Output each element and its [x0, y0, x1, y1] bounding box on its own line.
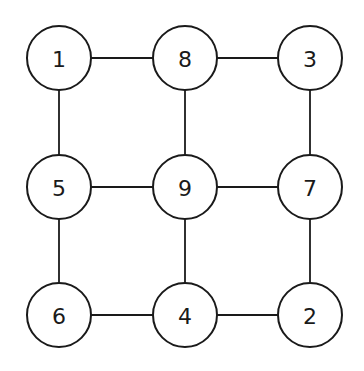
node-2: 2	[278, 283, 342, 347]
grid-graph-diagram: 1 8 3 5 9 7 6 4 2	[0, 0, 364, 371]
node-7: 7	[278, 155, 342, 219]
node-label: 2	[303, 304, 317, 329]
node-4: 4	[153, 283, 217, 347]
node-1: 1	[27, 26, 91, 90]
node-label: 5	[52, 176, 66, 201]
node-6: 6	[27, 283, 91, 347]
node-label: 4	[178, 304, 192, 329]
node-label: 9	[178, 176, 192, 201]
node-label: 8	[178, 47, 192, 72]
node-label: 3	[303, 47, 317, 72]
node-9: 9	[153, 155, 217, 219]
node-label: 7	[303, 176, 317, 201]
node-8: 8	[153, 26, 217, 90]
node-5: 5	[27, 155, 91, 219]
node-label: 1	[52, 47, 66, 72]
node-3: 3	[278, 26, 342, 90]
node-label: 6	[52, 304, 66, 329]
